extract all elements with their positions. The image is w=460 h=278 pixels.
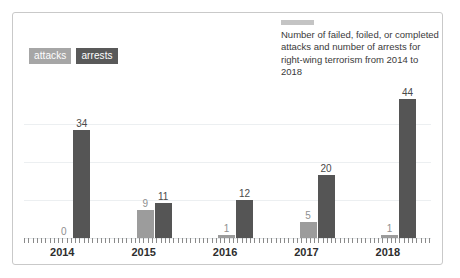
axis-tick bbox=[97, 238, 98, 243]
plot-area: 034911112520144 bbox=[24, 86, 431, 238]
bar-label-attacks-2017: 5 bbox=[305, 210, 311, 221]
axis-tick bbox=[101, 238, 102, 243]
bar-label-arrests-2015: 11 bbox=[158, 191, 168, 202]
axis-tick bbox=[190, 238, 191, 243]
bar-label-arrests-2017: 20 bbox=[320, 163, 331, 174]
axis-tick bbox=[62, 238, 63, 243]
axis-tick bbox=[357, 238, 358, 243]
axis-tick bbox=[186, 238, 187, 243]
bar-groups: 034911112520144 bbox=[24, 86, 431, 238]
axis-tick bbox=[250, 238, 251, 243]
bar-attacks-2015[interactable] bbox=[137, 210, 154, 239]
axis-tick bbox=[37, 238, 38, 243]
x-axis-label-2017: 2017 bbox=[294, 246, 318, 259]
axis-tick bbox=[344, 238, 345, 243]
axis-tick bbox=[118, 238, 119, 243]
axis-tick bbox=[378, 238, 379, 243]
axis-tick bbox=[242, 238, 243, 243]
axis-tick bbox=[24, 238, 25, 243]
axis-tick bbox=[45, 238, 46, 243]
axis-tick bbox=[28, 238, 29, 243]
axis-tick bbox=[387, 238, 388, 243]
x-axis-tick-band bbox=[24, 238, 431, 243]
axis-tick bbox=[382, 238, 383, 243]
x-axis-label-2016: 2016 bbox=[213, 246, 237, 259]
axis-tick bbox=[148, 238, 149, 243]
axis-tick bbox=[152, 238, 153, 243]
axis-tick bbox=[156, 238, 157, 243]
x-axis-label-2018: 2018 bbox=[376, 246, 400, 259]
axis-tick bbox=[259, 238, 260, 243]
axis-tick bbox=[318, 238, 319, 243]
axis-tick bbox=[276, 238, 277, 243]
bar-group: 112 bbox=[218, 86, 253, 238]
axis-tick bbox=[306, 238, 307, 243]
axis-tick bbox=[280, 238, 281, 243]
axis-tick bbox=[404, 238, 405, 243]
bar-attacks-2017[interactable] bbox=[300, 222, 317, 238]
axis-tick bbox=[237, 238, 238, 243]
bar-arrests-2014[interactable] bbox=[73, 130, 90, 238]
axis-tick bbox=[246, 238, 247, 243]
axis-tick bbox=[67, 238, 68, 243]
axis-tick bbox=[105, 238, 106, 243]
axis-tick bbox=[335, 238, 336, 243]
axis-tick bbox=[58, 238, 59, 243]
axis-tick bbox=[161, 238, 162, 243]
axis-tick bbox=[267, 238, 268, 243]
bar-arrests-2016[interactable] bbox=[236, 200, 253, 238]
axis-tick bbox=[391, 238, 392, 243]
axis-tick bbox=[399, 238, 400, 243]
axis-tick bbox=[165, 238, 166, 243]
bar-group: 911 bbox=[137, 86, 172, 238]
axis-tick bbox=[178, 238, 179, 243]
axis-tick bbox=[122, 238, 123, 243]
axis-tick bbox=[301, 238, 302, 243]
axis-tick bbox=[310, 238, 311, 243]
bar-arrests-2018[interactable] bbox=[399, 99, 416, 238]
legend-item-attacks[interactable]: attacks bbox=[29, 48, 71, 64]
axis-tick bbox=[203, 238, 204, 243]
axis-tick bbox=[54, 238, 55, 243]
legend-item-arrests[interactable]: arrests bbox=[76, 48, 117, 64]
axis-tick bbox=[75, 238, 76, 243]
axis-tick bbox=[224, 238, 225, 243]
bar-label-arrests-2018: 44 bbox=[402, 87, 413, 98]
axis-tick bbox=[135, 238, 136, 243]
bar-label-attacks-2014: 0 bbox=[61, 226, 67, 237]
axis-tick bbox=[50, 238, 51, 243]
axis-tick bbox=[352, 238, 353, 243]
axis-tick bbox=[109, 238, 110, 243]
axis-tick bbox=[365, 238, 366, 243]
axis-tick bbox=[71, 238, 72, 243]
axis-tick bbox=[254, 238, 255, 243]
title-swatch-icon bbox=[281, 20, 314, 25]
axis-tick bbox=[88, 238, 89, 243]
axis-tick bbox=[323, 238, 324, 243]
bar-arrests-2015[interactable] bbox=[155, 203, 172, 238]
bar-group: 034 bbox=[55, 86, 90, 238]
axis-tick bbox=[114, 238, 115, 243]
axis-tick bbox=[370, 238, 371, 243]
bar-label-attacks-2018: 1 bbox=[387, 223, 393, 234]
axis-tick bbox=[416, 238, 417, 243]
axis-tick bbox=[293, 238, 294, 243]
bar-label-arrests-2016: 12 bbox=[239, 188, 250, 199]
axis-tick bbox=[220, 238, 221, 243]
axis-tick bbox=[263, 238, 264, 243]
axis-tick bbox=[216, 238, 217, 243]
bar-arrests-2017[interactable] bbox=[318, 175, 335, 238]
axis-tick bbox=[169, 238, 170, 243]
axis-tick bbox=[374, 238, 375, 243]
bar-group: 144 bbox=[381, 86, 416, 238]
axis-tick bbox=[425, 238, 426, 243]
axis-tick bbox=[207, 238, 208, 243]
chart-title: Number of failed, foiled, or completed a… bbox=[281, 29, 439, 79]
axis-tick bbox=[297, 238, 298, 243]
axis-tick bbox=[195, 238, 196, 243]
x-axis-label-2015: 2015 bbox=[131, 246, 155, 259]
axis-tick bbox=[429, 238, 430, 243]
axis-tick bbox=[79, 238, 80, 243]
bar-group: 520 bbox=[300, 86, 335, 238]
axis-tick bbox=[421, 238, 422, 243]
